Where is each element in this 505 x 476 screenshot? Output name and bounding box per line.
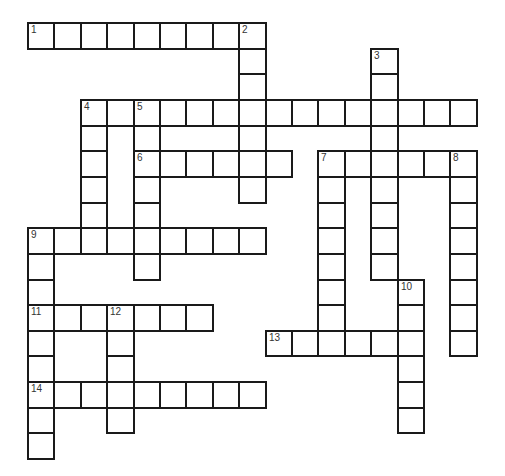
crossword-cell[interactable] <box>397 407 425 434</box>
crossword-cell[interactable] <box>370 150 399 178</box>
crossword-cell[interactable] <box>80 22 108 50</box>
crossword-cell[interactable] <box>80 150 108 178</box>
crossword-cell[interactable] <box>159 99 187 127</box>
crossword-cell[interactable]: 1 <box>27 22 55 50</box>
crossword-cell[interactable] <box>449 330 478 357</box>
crossword-cell[interactable] <box>370 227 399 255</box>
crossword-cell[interactable] <box>212 150 240 178</box>
crossword-cell[interactable] <box>317 279 346 306</box>
crossword-cell[interactable] <box>238 176 267 204</box>
crossword-cell[interactable] <box>397 150 425 178</box>
crossword-cell[interactable] <box>159 150 187 178</box>
crossword-cell[interactable] <box>397 381 425 409</box>
crossword-cell[interactable] <box>27 253 55 281</box>
crossword-cell[interactable] <box>449 279 478 306</box>
crossword-cell[interactable] <box>397 330 425 357</box>
crossword-cell[interactable] <box>27 279 55 306</box>
crossword-cell[interactable] <box>185 99 214 127</box>
crossword-cell[interactable] <box>238 150 267 178</box>
crossword-cell[interactable] <box>53 227 82 255</box>
crossword-cell[interactable] <box>159 22 187 50</box>
crossword-cell[interactable] <box>317 202 346 229</box>
crossword-cell[interactable] <box>106 407 135 434</box>
crossword-cell[interactable] <box>344 150 372 178</box>
crossword-cell[interactable] <box>106 22 135 50</box>
crossword-cell[interactable] <box>212 381 240 409</box>
crossword-cell[interactable] <box>53 22 82 50</box>
crossword-cell[interactable]: 11 <box>27 304 55 332</box>
crossword-cell[interactable] <box>423 99 451 127</box>
crossword-cell[interactable] <box>27 330 55 357</box>
crossword-cell[interactable] <box>106 381 135 409</box>
crossword-cell[interactable] <box>370 253 399 281</box>
crossword-cell[interactable] <box>317 304 346 332</box>
crossword-cell[interactable]: 6 <box>133 150 161 178</box>
crossword-cell[interactable] <box>370 73 399 101</box>
crossword-cell[interactable] <box>106 355 135 383</box>
crossword-cell[interactable] <box>449 253 478 281</box>
crossword-cell[interactable] <box>449 99 478 127</box>
crossword-cell[interactable] <box>423 150 451 178</box>
crossword-cell[interactable] <box>106 330 135 357</box>
crossword-cell[interactable] <box>53 381 82 409</box>
crossword-cell[interactable] <box>238 48 267 75</box>
crossword-cell[interactable] <box>397 99 425 127</box>
crossword-cell[interactable]: 13 <box>265 330 293 357</box>
crossword-cell[interactable] <box>370 176 399 204</box>
crossword-cell[interactable] <box>133 227 161 255</box>
crossword-cell[interactable] <box>212 227 240 255</box>
crossword-cell[interactable] <box>133 176 161 204</box>
crossword-cell[interactable] <box>291 99 319 127</box>
crossword-cell[interactable] <box>265 150 293 178</box>
crossword-cell[interactable] <box>397 304 425 332</box>
crossword-cell[interactable]: 12 <box>106 304 135 332</box>
crossword-cell[interactable] <box>317 253 346 281</box>
crossword-cell[interactable] <box>370 330 399 357</box>
crossword-cell[interactable]: 10 <box>397 279 425 306</box>
crossword-cell[interactable] <box>159 227 187 255</box>
crossword-cell[interactable] <box>159 381 187 409</box>
crossword-cell[interactable] <box>212 99 240 127</box>
crossword-cell[interactable] <box>159 304 187 332</box>
crossword-cell[interactable] <box>133 22 161 50</box>
crossword-cell[interactable] <box>317 99 346 127</box>
crossword-cell[interactable] <box>238 99 267 127</box>
crossword-cell[interactable] <box>106 227 135 255</box>
crossword-cell[interactable] <box>133 253 161 281</box>
crossword-cell[interactable] <box>80 381 108 409</box>
crossword-cell[interactable] <box>344 99 372 127</box>
crossword-cell[interactable] <box>317 227 346 255</box>
crossword-cell[interactable] <box>212 22 240 50</box>
crossword-cell[interactable] <box>449 304 478 332</box>
crossword-cell[interactable] <box>27 355 55 383</box>
crossword-cell[interactable] <box>80 227 108 255</box>
crossword-cell[interactable]: 7 <box>317 150 346 178</box>
crossword-cell[interactable] <box>238 73 267 101</box>
crossword-cell[interactable] <box>238 125 267 152</box>
crossword-cell[interactable] <box>449 227 478 255</box>
crossword-cell[interactable] <box>106 99 135 127</box>
crossword-cell[interactable] <box>185 227 214 255</box>
crossword-cell[interactable] <box>397 355 425 383</box>
crossword-cell[interactable] <box>80 202 108 229</box>
crossword-cell[interactable]: 2 <box>238 22 267 50</box>
crossword-cell[interactable] <box>185 304 214 332</box>
crossword-cell[interactable] <box>133 304 161 332</box>
crossword-cell[interactable] <box>370 99 399 127</box>
crossword-cell[interactable]: 8 <box>449 150 478 178</box>
crossword-cell[interactable] <box>238 227 267 255</box>
crossword-cell[interactable] <box>449 202 478 229</box>
crossword-cell[interactable] <box>185 381 214 409</box>
crossword-cell[interactable] <box>317 330 346 357</box>
crossword-cell[interactable]: 3 <box>370 48 399 75</box>
crossword-cell[interactable] <box>53 304 82 332</box>
crossword-cell[interactable] <box>238 381 267 409</box>
crossword-cell[interactable] <box>133 381 161 409</box>
crossword-cell[interactable]: 5 <box>133 99 161 127</box>
crossword-cell[interactable] <box>185 150 214 178</box>
crossword-cell[interactable]: 14 <box>27 381 55 409</box>
crossword-cell[interactable] <box>449 176 478 204</box>
crossword-cell[interactable] <box>370 202 399 229</box>
crossword-cell[interactable] <box>344 330 372 357</box>
crossword-cell[interactable] <box>185 22 214 50</box>
